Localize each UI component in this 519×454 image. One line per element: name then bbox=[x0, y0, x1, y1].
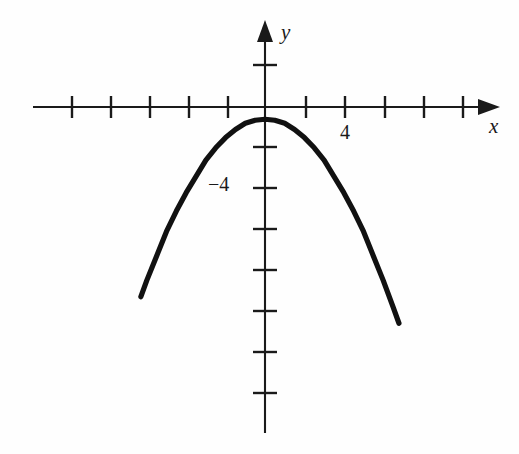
parabola-curve bbox=[141, 119, 399, 323]
x-axis-label: x bbox=[489, 116, 498, 137]
y-tick-label-negative-4: −4 bbox=[208, 174, 229, 194]
x-axis-arrow-icon bbox=[478, 99, 500, 115]
y-axis-label: y bbox=[281, 22, 290, 43]
coordinate-plot bbox=[0, 0, 519, 454]
graph-figure: y x 4 −4 bbox=[0, 0, 519, 454]
x-tick-label-4: 4 bbox=[340, 122, 350, 142]
y-axis-arrow-icon bbox=[257, 20, 273, 42]
